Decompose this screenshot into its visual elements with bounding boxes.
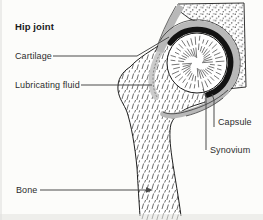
scan-edge-bottom [0, 214, 263, 220]
label-synovium: Synovium [210, 145, 250, 155]
label-bone: Bone [16, 185, 37, 195]
label-lubricating-fluid: Lubricating fluid [15, 80, 80, 90]
femoral-head [167, 33, 227, 93]
label-cartilage: Cartilage [15, 51, 52, 61]
scan-edge-left [0, 0, 2, 220]
anatomy-illustration [0, 0, 263, 220]
figure-title: Hip joint [15, 22, 54, 32]
label-capsule: Capsule [218, 117, 252, 127]
hip-joint-diagram: Hip joint Cartilage Lubricating fluid Ca… [0, 0, 263, 220]
bone-leader-line [40, 187, 153, 193]
